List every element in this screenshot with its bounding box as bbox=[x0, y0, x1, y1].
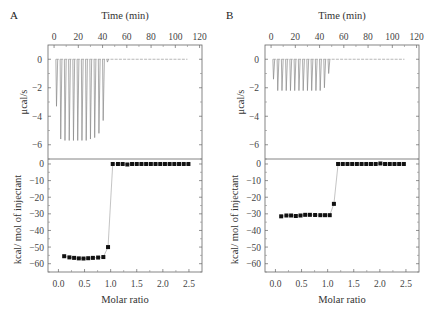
data-point bbox=[96, 256, 100, 260]
x-tick-label-molar: 0.0 bbox=[53, 279, 65, 289]
y-tick-label-heat: −10 bbox=[29, 176, 44, 186]
data-point bbox=[130, 162, 134, 166]
y-tick-label-power: −4 bbox=[32, 112, 42, 122]
y-axis-title-heat: kcal/ mol of injectant bbox=[12, 175, 23, 265]
data-point bbox=[182, 162, 186, 166]
data-point bbox=[125, 162, 129, 166]
thermogram-trace bbox=[56, 59, 109, 140]
data-point bbox=[294, 214, 298, 218]
y-tick-label-heat: 0 bbox=[39, 159, 44, 169]
data-point bbox=[350, 162, 354, 166]
data-point bbox=[374, 162, 378, 166]
data-point bbox=[313, 213, 317, 217]
x-tick-label-molar: 0.0 bbox=[270, 279, 282, 289]
data-point bbox=[172, 162, 176, 166]
y-tick-label-heat: −20 bbox=[29, 193, 44, 203]
x-tick-label-molar: 2.0 bbox=[374, 279, 386, 289]
y-tick-label-heat: −30 bbox=[29, 209, 44, 219]
data-point bbox=[328, 213, 332, 217]
data-point bbox=[383, 162, 387, 166]
x-axis-title-time: Time (min) bbox=[318, 10, 366, 22]
x-tick-label-molar: 1.0 bbox=[322, 279, 334, 289]
data-point bbox=[298, 214, 302, 218]
thermogram-trace bbox=[273, 59, 330, 90]
x-tick-label-time: 80 bbox=[363, 32, 373, 42]
x-tick-label-time: 40 bbox=[315, 32, 325, 42]
y-axis-title-power: μcal/s bbox=[235, 90, 246, 115]
y-tick-label-heat: −60 bbox=[29, 259, 44, 269]
y-tick-label-power: −6 bbox=[32, 140, 42, 150]
x-tick-label-time: 60 bbox=[339, 32, 349, 42]
x-tick-label-time: 0 bbox=[52, 32, 57, 42]
x-axis-title-molar: Molar ratio bbox=[318, 294, 366, 305]
data-point bbox=[355, 162, 359, 166]
x-tick-label-time: 100 bbox=[168, 32, 183, 42]
fit-line bbox=[64, 164, 188, 259]
data-point bbox=[163, 162, 167, 166]
y-tick-label-power: −6 bbox=[249, 140, 259, 150]
y-axis-title-heat: kcal/ mol of injectant bbox=[229, 175, 240, 265]
chart-panel-b: BTime (min)0204060801001200−2−4−6μcal/s0… bbox=[226, 9, 424, 305]
x-tick-label-time: 40 bbox=[98, 32, 108, 42]
y-tick-label-heat: −50 bbox=[29, 243, 44, 253]
data-point bbox=[308, 213, 312, 217]
y-tick-label-power: 0 bbox=[254, 55, 259, 65]
data-point bbox=[336, 162, 340, 166]
x-tick-label-time: 0 bbox=[269, 32, 274, 42]
plot-frame bbox=[48, 45, 202, 272]
data-point bbox=[144, 162, 148, 166]
x-tick-label-time: 120 bbox=[409, 32, 424, 42]
x-tick-label-molar: 1.5 bbox=[348, 279, 360, 289]
data-point bbox=[378, 161, 382, 165]
data-point bbox=[177, 162, 181, 166]
data-point bbox=[91, 256, 95, 260]
x-tick-label-molar: 0.5 bbox=[79, 279, 91, 289]
x-tick-label-molar: 1.5 bbox=[131, 279, 143, 289]
data-point bbox=[135, 162, 139, 166]
fit-line bbox=[281, 163, 404, 216]
data-point bbox=[77, 256, 81, 260]
data-point bbox=[369, 162, 373, 166]
data-point bbox=[402, 162, 406, 166]
x-tick-label-molar: 2.5 bbox=[183, 279, 195, 289]
data-point bbox=[139, 162, 143, 166]
y-tick-label-heat: −10 bbox=[246, 176, 261, 186]
data-point bbox=[158, 162, 162, 166]
y-tick-label-heat: 0 bbox=[256, 159, 261, 169]
x-tick-label-molar: 2.0 bbox=[157, 279, 169, 289]
data-point bbox=[341, 162, 345, 166]
data-point bbox=[81, 257, 85, 261]
y-tick-label-power: −2 bbox=[249, 83, 259, 93]
data-point bbox=[364, 162, 368, 166]
data-point bbox=[116, 162, 120, 166]
data-point bbox=[67, 255, 71, 259]
itc-figure: ATime (min)0204060801001200−2−4−6μcal/s0… bbox=[0, 0, 434, 318]
x-tick-label-time: 20 bbox=[291, 32, 301, 42]
data-point bbox=[111, 162, 115, 166]
x-tick-label-molar: 1.0 bbox=[105, 279, 117, 289]
y-tick-label-power: −4 bbox=[249, 112, 259, 122]
x-tick-label-time: 100 bbox=[385, 32, 400, 42]
data-point bbox=[86, 256, 90, 260]
data-point bbox=[392, 162, 396, 166]
data-point bbox=[388, 162, 392, 166]
y-tick-label-power: 0 bbox=[37, 55, 42, 65]
data-point bbox=[360, 162, 364, 166]
data-point bbox=[186, 162, 190, 166]
x-axis-title-molar: Molar ratio bbox=[101, 294, 149, 305]
y-tick-label-heat: −40 bbox=[29, 226, 44, 236]
data-point bbox=[289, 214, 293, 218]
y-axis-title-power: μcal/s bbox=[18, 90, 29, 115]
chart-panel-a: ATime (min)0204060801001200−2−4−6μcal/s0… bbox=[10, 9, 207, 305]
data-point bbox=[323, 213, 327, 217]
data-point bbox=[106, 245, 110, 249]
data-point bbox=[168, 162, 172, 166]
panel-label: A bbox=[10, 9, 18, 21]
data-point bbox=[72, 256, 76, 260]
data-point bbox=[318, 213, 322, 217]
data-point bbox=[121, 162, 125, 166]
plot-frame bbox=[265, 45, 419, 272]
data-point bbox=[345, 162, 349, 166]
y-tick-label-heat: −50 bbox=[246, 243, 261, 253]
y-tick-label-heat: −20 bbox=[246, 193, 261, 203]
